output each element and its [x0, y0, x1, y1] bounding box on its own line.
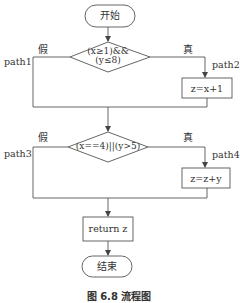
decision1-line2: (y≤8) — [78, 56, 138, 65]
path2-label: path2 — [212, 59, 240, 70]
end-label: 结束 — [82, 261, 132, 272]
return-label: return z — [83, 223, 133, 234]
figure-caption: 图 6.8 流程图 — [0, 288, 238, 303]
path4-label: path4 — [212, 149, 240, 160]
process1-label: z=x+1 — [182, 83, 232, 94]
path1-label: path1 — [4, 56, 32, 67]
decision2-false-label: 假 — [38, 132, 48, 143]
start-label: 开始 — [85, 10, 135, 21]
decision2-label: (x==4)||(y>5) — [70, 141, 146, 152]
decision2-true-label: 真 — [183, 132, 193, 143]
process2-label: z=z+y — [182, 173, 230, 184]
decision1-true-label: 真 — [183, 44, 193, 55]
path3-label: path3 — [4, 148, 32, 159]
decision1-false-label: 假 — [38, 44, 48, 55]
